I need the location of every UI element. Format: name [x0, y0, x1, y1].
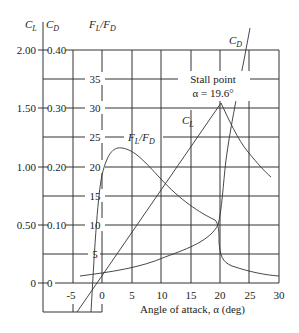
svg-text:10: 10	[90, 219, 102, 231]
svg-text:20: 20	[90, 161, 102, 173]
chart: CL CD FL/FD	[0, 0, 299, 333]
svg-text:α = 19.6°: α = 19.6°	[192, 87, 233, 99]
svg-text:30: 30	[90, 102, 102, 114]
svg-text:25: 25	[245, 289, 257, 301]
svg-text:1.00: 1.00	[17, 161, 37, 173]
svg-text:15: 15	[186, 289, 198, 301]
svg-text:0: 0	[31, 277, 37, 289]
svg-text:5: 5	[129, 289, 135, 301]
stall-annotation: Stall point α = 19.6°	[178, 71, 250, 101]
svg-text:0.40: 0.40	[47, 44, 67, 56]
cd-curve	[80, 28, 250, 276]
svg-text:0.10: 0.10	[47, 219, 67, 231]
svg-text:5: 5	[92, 248, 98, 260]
cl-axis-label: CL	[25, 18, 37, 33]
svg-text:2.00: 2.00	[17, 44, 37, 56]
svg-text:0.20: 0.20	[47, 161, 67, 173]
svg-text:0.30: 0.30	[47, 102, 67, 114]
ratio-curve-label: FL/FD	[127, 131, 155, 146]
svg-text:1.50: 1.50	[17, 102, 37, 114]
cd-tick-labels: 0.40 0.30 0.20 0.10 0	[47, 44, 67, 289]
svg-text:-5: -5	[66, 289, 76, 301]
svg-text:10: 10	[157, 289, 169, 301]
ratio-axis-label: FL/FD	[88, 18, 116, 33]
svg-text:0: 0	[99, 289, 105, 301]
svg-text:25: 25	[90, 131, 102, 143]
svg-text:30: 30	[274, 289, 286, 301]
cd-curve-label: CD	[229, 34, 242, 49]
svg-text:20: 20	[215, 289, 227, 301]
cd-axis-label: CD	[46, 18, 59, 33]
ratio-tick-labels: 35 30 25 20 15 10 5	[86, 72, 104, 260]
svg-text:35: 35	[90, 73, 102, 85]
cl-curve	[77, 103, 271, 312]
ratio-curve	[91, 148, 279, 312]
svg-text:Stall point: Stall point	[190, 73, 236, 85]
cl-curve-label: CL	[182, 114, 194, 129]
svg-text:0.50: 0.50	[17, 219, 37, 231]
x-axis-label: Angle of attack, α (deg)	[140, 303, 245, 316]
x-tick-labels: -5 0 5 10 15 20 25 30	[66, 289, 285, 301]
axis-headers: CL CD FL/FD	[25, 18, 116, 33]
svg-text:0: 0	[47, 277, 53, 289]
